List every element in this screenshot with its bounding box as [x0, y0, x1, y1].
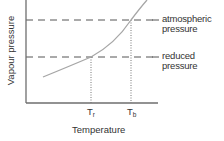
x-tick-tr: Tr	[87, 106, 95, 118]
y-axis-label: Vapour pressure	[5, 11, 16, 91]
x-axis-label: Temperature	[72, 124, 125, 135]
reduced-label: reduced pressure	[162, 51, 197, 71]
x-tick-tb: Tb	[127, 106, 136, 118]
atmospheric-label: atmospheric pressure	[162, 14, 212, 34]
atmospheric-label-line2: pressure	[162, 24, 212, 34]
reduced-label-line2: pressure	[162, 61, 197, 71]
